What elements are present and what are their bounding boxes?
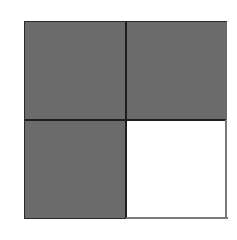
cell-top-left-shaded — [25, 22, 126, 120]
fraction-grid — [24, 21, 227, 219]
cell-bottom-right-empty — [126, 120, 227, 218]
bottom-right-border-bottom — [126, 217, 228, 219]
bottom-right-border-right — [225, 120, 227, 219]
horizontal-divider — [25, 119, 226, 121]
cell-top-right-shaded — [126, 22, 227, 120]
cell-bottom-left-shaded — [25, 120, 126, 218]
